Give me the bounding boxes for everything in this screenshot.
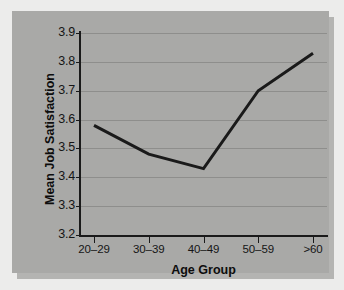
y-axis-tick-label: 3.2 bbox=[58, 227, 75, 241]
y-axis-tick-label: 3.5 bbox=[58, 140, 75, 154]
y-axis-tick-label: 3.8 bbox=[58, 54, 75, 68]
x-axis-tick-mark bbox=[149, 237, 150, 243]
x-axis-tick-label: 30–39 bbox=[133, 243, 164, 255]
data-series-line bbox=[80, 33, 327, 235]
y-axis-tick-label: 3.9 bbox=[58, 25, 75, 39]
x-axis-tick-label: 40–49 bbox=[188, 243, 219, 255]
series-polyline bbox=[94, 53, 313, 168]
y-axis-tick-label: 3.6 bbox=[58, 112, 75, 126]
x-axis-tick-label: 50–59 bbox=[243, 243, 274, 255]
chart-panel: 3.23.33.43.53.63.73.83.9 20–2930–3940–49… bbox=[12, 11, 329, 273]
x-axis-tick-label: >60 bbox=[303, 243, 322, 255]
x-axis-tick-label: 20–29 bbox=[78, 243, 109, 255]
y-axis-tick-mark bbox=[76, 120, 80, 121]
y-axis-tick-mark bbox=[76, 235, 80, 236]
y-axis-tick-mark bbox=[76, 148, 80, 149]
y-axis-tick-mark bbox=[76, 62, 80, 63]
y-axis-tick-mark bbox=[76, 91, 80, 92]
x-axis-tick-mark bbox=[313, 237, 314, 243]
chart-figure: 3.23.33.43.53.63.73.83.9 20–2930–3940–49… bbox=[0, 0, 344, 290]
y-axis-tick-label: 3.3 bbox=[58, 198, 75, 212]
y-axis-tick-label: 3.4 bbox=[58, 169, 75, 183]
x-axis-tick-mark bbox=[204, 237, 205, 243]
y-axis-tick-mark bbox=[76, 177, 80, 178]
y-axis-tick-label: 3.7 bbox=[58, 83, 75, 97]
y-axis-tick-mark bbox=[76, 33, 80, 34]
x-axis-title: Age Group bbox=[80, 263, 327, 277]
x-axis-tick-mark bbox=[94, 237, 95, 243]
y-axis-tick-mark bbox=[76, 206, 80, 207]
y-axis-title: Mean Job Satisfaction bbox=[43, 39, 57, 239]
x-axis-tick-mark bbox=[258, 237, 259, 243]
